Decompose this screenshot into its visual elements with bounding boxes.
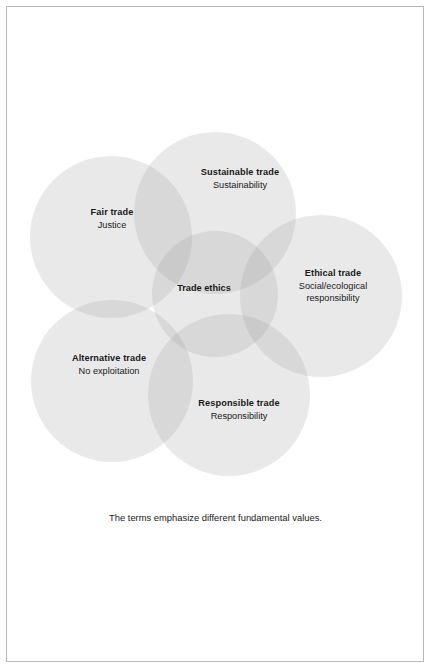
venn-value-alternative-trade: No exploitation <box>28 366 190 378</box>
venn-diagram-figure: Sustainable trade Sustainability Fair tr… <box>0 0 431 669</box>
venn-label-ethical-trade: Ethical trade Social/ecological responsi… <box>254 268 412 304</box>
venn-term-responsible-trade: Responsible trade <box>149 398 329 410</box>
venn-term-sustainable-trade: Sustainable trade <box>155 167 325 179</box>
venn-value-fair-trade: Justice <box>37 220 187 232</box>
venn-diagram-svg <box>0 0 431 669</box>
venn-label-sustainable-trade: Sustainable trade Sustainability <box>155 167 325 192</box>
venn-label-trade-ethics: Trade ethics <box>140 283 268 293</box>
venn-value-sustainable-trade: Sustainability <box>155 180 325 192</box>
venn-label-responsible-trade: Responsible trade Responsibility <box>149 398 329 423</box>
venn-term-ethical-trade: Ethical trade <box>254 268 412 280</box>
venn-term-fair-trade: Fair trade <box>37 207 187 219</box>
venn-value-ethical-trade-line2: responsibility <box>254 293 412 305</box>
page-canvas: Sustainable trade Sustainability Fair tr… <box>0 0 431 669</box>
venn-value-ethical-trade: Social/ecological responsibility <box>254 281 412 305</box>
venn-term-alternative-trade: Alternative trade <box>28 353 190 365</box>
venn-label-alternative-trade: Alternative trade No exploitation <box>28 353 190 378</box>
figure-caption: The terms emphasize different fundamenta… <box>0 512 431 523</box>
venn-label-fair-trade: Fair trade Justice <box>37 207 187 232</box>
venn-value-responsible-trade: Responsibility <box>149 411 329 423</box>
